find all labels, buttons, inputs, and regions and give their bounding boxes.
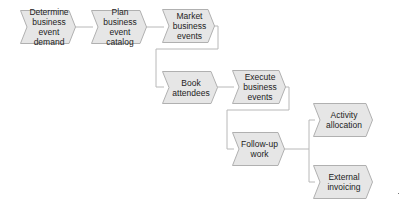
node-label: Activity allocation [318,110,368,130]
node-label: Follow-up work [233,139,284,159]
node-plan[interactable]: Plan business event catalog [91,10,147,44]
stray-dot [398,193,399,194]
node-label: Execute business events [235,72,283,102]
node-label: Plan business event catalog [91,7,147,47]
node-label: Determine business event demand [20,7,76,47]
node-activity[interactable]: Activity allocation [313,103,373,137]
node-label: Book attendees [164,78,215,98]
node-book[interactable]: Book attendees [162,71,218,104]
node-label: External invoicing [319,172,366,192]
node-market[interactable]: Market business events [162,9,215,43]
node-external[interactable]: External invoicing [313,165,373,199]
node-followup[interactable]: Follow-up work [232,132,285,166]
edge-followup-activity [284,120,315,149]
node-determine[interactable]: Determine business event demand [20,10,76,44]
node-label: Market business events [165,11,213,41]
node-execute[interactable]: Execute business events [232,70,286,104]
